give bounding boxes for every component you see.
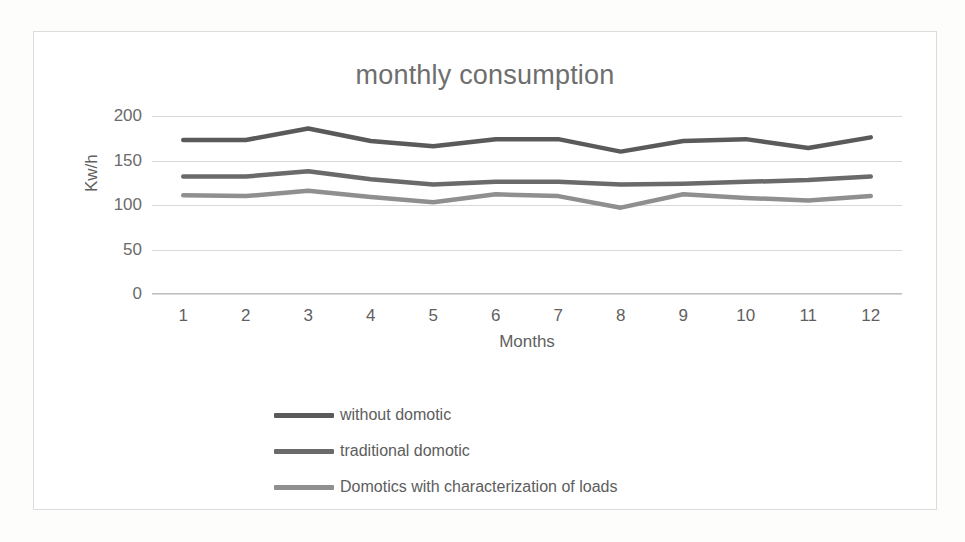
- chart-title: monthly consumption: [34, 60, 936, 91]
- x-tick-label: 1: [179, 306, 188, 326]
- series-line-2: [183, 171, 871, 184]
- x-tick-label: 8: [616, 306, 625, 326]
- legend-item[interactable]: without domotic: [274, 397, 894, 433]
- legend-label: traditional domotic: [340, 442, 470, 460]
- x-tick-label: 5: [429, 306, 438, 326]
- gridline: [152, 294, 902, 295]
- x-tick-label: 2: [241, 306, 250, 326]
- y-tick-label: 0: [133, 284, 142, 304]
- x-axis-label: Months: [152, 332, 902, 352]
- legend-item[interactable]: Domotics with characterization of loads: [274, 469, 894, 505]
- legend-label: without domotic: [340, 406, 451, 424]
- x-tick-label: 4: [366, 306, 375, 326]
- y-tick-label: 50: [123, 240, 142, 260]
- legend-swatch-icon: [274, 449, 334, 454]
- x-tick-label: 12: [861, 306, 880, 326]
- y-axis-label: Kw/h: [82, 154, 102, 192]
- plot-area: 050100150200 123456789101112: [152, 116, 902, 294]
- legend-swatch-icon: [274, 485, 334, 490]
- chart-frame: monthly consumption Kw/h 050100150200 12…: [33, 31, 937, 510]
- x-tick-label: 6: [491, 306, 500, 326]
- y-tick-label: 150: [114, 151, 142, 171]
- legend-label: Domotics with characterization of loads: [340, 478, 617, 496]
- chart-legend: without domotictraditional domoticDomoti…: [274, 397, 894, 505]
- series-line-3: [183, 191, 871, 208]
- series-lines: [152, 116, 902, 294]
- x-tick-label: 9: [679, 306, 688, 326]
- y-tick-label: 200: [114, 106, 142, 126]
- x-tick-label: 3: [304, 306, 313, 326]
- x-tick-label: 10: [736, 306, 755, 326]
- legend-item[interactable]: traditional domotic: [274, 433, 894, 469]
- series-line-1: [183, 128, 871, 151]
- x-tick-label: 11: [799, 306, 817, 326]
- legend-swatch-icon: [274, 413, 334, 418]
- y-tick-label: 100: [114, 195, 142, 215]
- x-tick-label: 7: [554, 306, 563, 326]
